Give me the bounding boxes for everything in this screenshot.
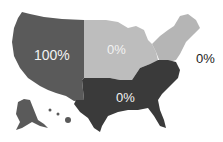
region-northeast[interactable] bbox=[152, 14, 200, 62]
region-alaska[interactable] bbox=[16, 99, 48, 130]
region-hawaii-1[interactable] bbox=[49, 109, 52, 112]
region-hawaii-2[interactable] bbox=[57, 113, 60, 116]
region-hawaii-3[interactable] bbox=[65, 117, 71, 123]
us-region-map bbox=[0, 0, 223, 142]
label-midwest: 0% bbox=[107, 42, 126, 57]
label-northeast: 0% bbox=[196, 51, 215, 66]
label-south: 0% bbox=[116, 90, 135, 105]
label-west: 100% bbox=[34, 47, 70, 63]
